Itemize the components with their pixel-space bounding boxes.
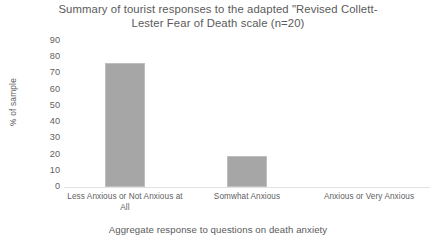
y-axis-tick-label: 30 [36, 134, 60, 143]
bar-slot [64, 47, 186, 187]
y-axis-title: % of sample [8, 57, 18, 147]
y-axis-tick-label: 40 [36, 118, 60, 127]
x-axis-line [64, 187, 430, 188]
chart-title: Summary of tourist responses to the adap… [18, 2, 418, 30]
y-axis-tick-label: 10 [36, 166, 60, 175]
y-axis-tick-label: 20 [36, 150, 60, 159]
bar [227, 156, 267, 187]
x-axis-label: Less Anxious or Not Anxious at All [64, 192, 186, 213]
bar-chart: Summary of tourist responses to the adap… [0, 0, 435, 240]
bar-slot [186, 47, 308, 187]
x-axis-label: Anxious or Very Anxious [308, 192, 430, 203]
bar-slot [308, 47, 430, 187]
plot-area [64, 47, 430, 187]
y-axis-tick-label: 80 [36, 53, 60, 62]
y-axis-tick-label: 0 [36, 182, 60, 191]
x-axis-title: Aggregate response to questions on death… [18, 224, 418, 235]
y-axis-tick-label: 50 [36, 101, 60, 110]
y-axis-tick-label: 90 [36, 36, 60, 45]
y-axis-tick-labels: 9080706050403020100 [36, 41, 60, 187]
y-axis-tick-label: 70 [36, 69, 60, 78]
bar [105, 63, 145, 187]
x-axis-label: Somwhat Anxious [186, 192, 308, 203]
x-axis-category-labels: Less Anxious or Not Anxious at All Somwh… [64, 192, 430, 220]
y-axis-tick-label: 60 [36, 85, 60, 94]
